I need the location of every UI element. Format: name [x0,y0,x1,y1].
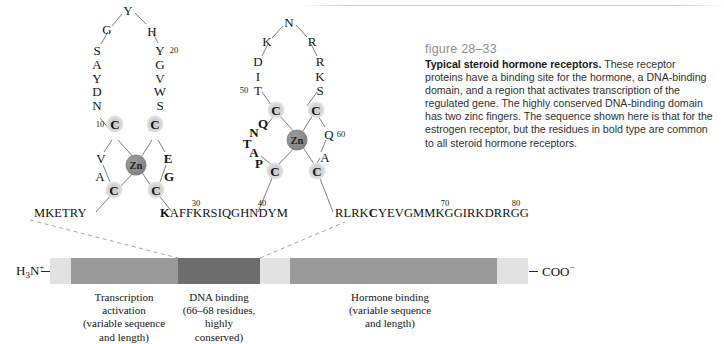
sequence-segment-2: KAFFKRSIQGHNDYM [160,207,288,220]
dna-binding-label: DNA binding (66–68 residues, highly cons… [164,291,274,344]
residue: I [256,70,260,83]
residue: T [254,84,262,97]
sequence-plain-residues: YEVGMMKGGIRKDRRGG [378,206,529,220]
label-line: (variable sequence [305,304,475,317]
residue: S [156,99,163,112]
residue-number-60: 60 [337,130,346,139]
sequence-segment-1: MKETRY [34,207,87,220]
residue: N [92,99,101,112]
sequence-segment-3: RLRKCYEVGMMKGGIRKDRRGG [335,207,529,220]
residue: H [147,25,156,38]
residue: G [155,58,164,71]
residue: A [92,58,101,71]
cysteine-residue: C [311,104,320,117]
residue: S [316,84,323,97]
cysteine-residue: C [150,118,159,131]
label-line: highly [164,317,274,330]
label-line: conserved) [164,331,274,344]
residue: K [262,35,271,48]
cysteine-residue: C [151,184,160,197]
residue: W [154,85,166,98]
c-terminus-label: COO− [542,262,575,279]
residue: R [308,35,317,48]
sequence-bold-residue: C [369,206,378,220]
cysteine-residue: C [312,165,321,178]
n-terminus-h: H [16,263,25,278]
label-line: Hormone binding [305,291,475,304]
residue: Q [258,117,268,130]
figure-number: figure 28–33 [425,42,715,56]
residue: S [93,44,100,57]
caption-lead: Typical steroid hormone receptors. [425,58,601,70]
c-terminus-charge: − [569,262,574,272]
label-line: (66–68 residues, [164,304,274,317]
residue-number-50: 50 [240,86,249,95]
residue-number-10: 10 [96,120,105,129]
residue: A [95,170,104,183]
residue: D [92,85,101,98]
zinc-label: Zn [291,135,304,146]
residue: P [255,157,263,170]
residue: E [164,152,173,165]
sequence-bold-residue: K [160,206,170,220]
c-terminus-text: COO [542,264,569,279]
residue-number-20: 20 [170,46,179,55]
residue: Y [155,44,164,57]
sequence-plain-residues: AFFKRSIQGHNDYM [170,206,288,220]
domain-bar-diagram: H3N+ COO− Transcription activation (vari… [0,258,724,331]
sequence-plain-residues: RLRK [335,206,369,220]
residue: A [320,151,329,164]
residue: V [96,152,105,165]
residue: Y [123,4,132,17]
sequence-to-domain-leaders [0,218,724,262]
residue: G [102,23,111,36]
zinc-label: Zn [130,160,143,171]
caption-text: Typical steroid hormone receptors. These… [425,58,715,150]
residue: D [253,55,262,68]
caption-body: These receptor proteins have a binding s… [425,58,713,149]
cysteine-residue: C [109,184,118,197]
residue: N [284,16,293,29]
figure-caption: figure 28–33 Typical steroid hormone rec… [425,42,715,150]
n-terminus-tick [41,271,50,272]
cysteine-residue: C [110,118,119,131]
c-terminus-tick [529,271,538,272]
label-line: DNA binding [164,291,274,304]
label-line: and length) [305,317,475,330]
cysteine-residue: C [270,165,279,178]
cysteine-residue: C [271,104,280,117]
residue: R [316,55,325,68]
n-terminus-n: N [30,263,39,278]
hormone-binding-label: Hormone binding (variable sequence and l… [305,291,475,331]
residue: Q [324,128,333,141]
residue: K [315,70,324,83]
residue: G [164,170,174,183]
